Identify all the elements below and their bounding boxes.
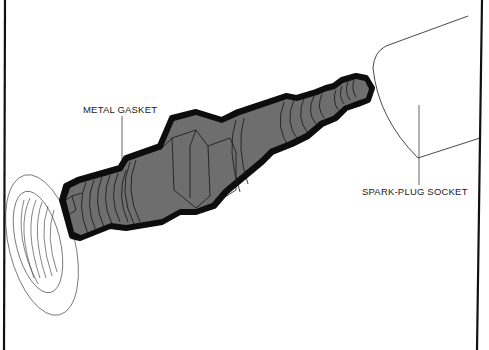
metal-gasket-label: METAL GASKET	[83, 105, 157, 115]
spark-plug-socket	[373, 16, 480, 158]
spark-plug	[62, 76, 372, 238]
spark-plug-socket-label: SPARK-PLUG SOCKET	[362, 187, 468, 197]
diagram-canvas: METAL GASKET SPARK-PLUG SOCKET	[0, 0, 489, 350]
